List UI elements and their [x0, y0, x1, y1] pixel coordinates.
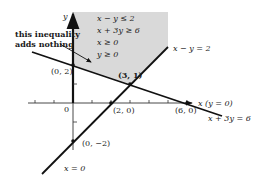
point-label-2-0: (2, 0)	[113, 106, 135, 115]
constraint-4: y ≥ 0	[96, 50, 118, 59]
x-axis-label: x (y = 0)	[198, 99, 233, 108]
point-label-0-neg2: (0, −2)	[82, 139, 110, 148]
annotation-line-2: adds nothing	[15, 39, 74, 49]
annotation-line-1: this inequality	[15, 29, 80, 39]
y-axis-label: y	[62, 12, 68, 21]
line-label-x-minus-y: x − y = 2	[173, 44, 211, 53]
point-label-3-1: (3, 1)	[118, 70, 142, 80]
constraint-3: x ≥ 0	[97, 38, 118, 47]
constraint-2: x + 3y ≥ 6	[97, 26, 140, 35]
feasible-region-diagram: y x (y = 0) 0 x = 0 x − y ≤ 2 x + 3y ≥ 6…	[0, 0, 275, 185]
origin-label: 0	[64, 105, 69, 114]
constraint-1: x − y ≤ 2	[97, 14, 135, 23]
y-axis-line-label: x = 0	[64, 164, 85, 173]
point-label-6-0: (6, 0)	[175, 106, 197, 115]
line-label-x-plus-3y: x + 3y = 6	[208, 114, 251, 123]
point-label-0-2: (0, 2)	[51, 67, 73, 76]
